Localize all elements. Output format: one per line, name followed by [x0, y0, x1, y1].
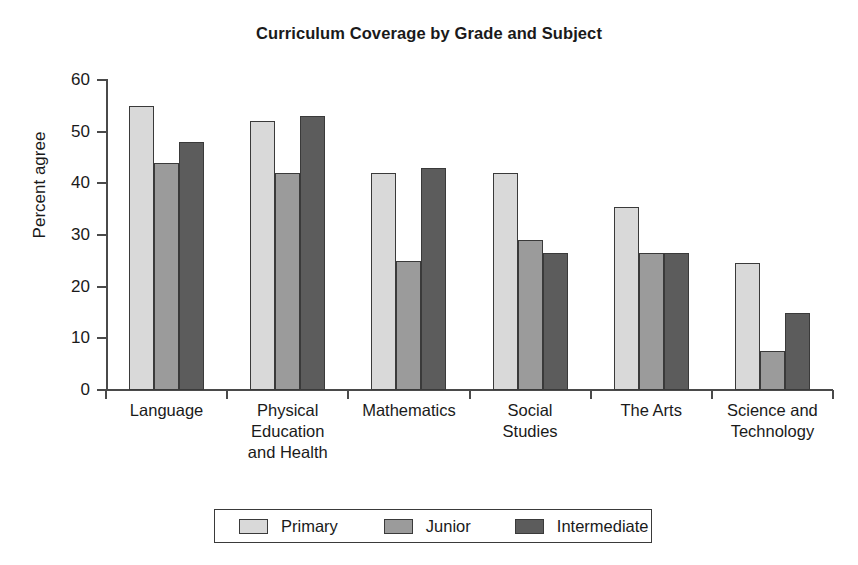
y-tick-mark	[97, 286, 106, 288]
x-category-label: Mathematics	[348, 400, 469, 421]
legend-item-intermediate[interactable]: Intermediate	[515, 510, 649, 542]
bar-group	[735, 80, 810, 390]
x-category-label: Science andTechnology	[712, 400, 833, 442]
legend-label-intermediate: Intermediate	[557, 517, 649, 536]
x-tick-mark	[469, 390, 471, 399]
y-tick-mark	[97, 234, 106, 236]
x-category-label-line: Studies	[470, 421, 591, 442]
y-tick-label: 0	[44, 381, 90, 398]
bar[interactable]	[300, 116, 325, 390]
y-tick-label: 50	[44, 123, 90, 140]
y-tick-mark	[97, 131, 106, 133]
legend-swatch-primary	[239, 519, 268, 534]
legend-label-junior: Junior	[426, 517, 471, 536]
y-tick-mark	[97, 337, 106, 339]
y-tick-label: 40	[44, 174, 90, 191]
legend-item-primary[interactable]: Primary	[239, 510, 338, 542]
x-tick-mark	[347, 390, 349, 399]
bar-group	[614, 80, 689, 390]
bar-group	[250, 80, 325, 390]
x-category-label-line: Physical	[227, 400, 348, 421]
bar[interactable]	[664, 253, 689, 390]
bar[interactable]	[735, 263, 760, 390]
bar-group	[129, 80, 204, 390]
bar-chart: Curriculum Coverage by Grade and Subject…	[0, 0, 858, 565]
x-category-label-line: Language	[106, 400, 227, 421]
legend-label-primary: Primary	[281, 517, 338, 536]
x-category-label-line: The Arts	[591, 400, 712, 421]
bar[interactable]	[518, 240, 543, 390]
y-tick-label: 10	[44, 329, 90, 346]
bar[interactable]	[179, 142, 204, 390]
bar[interactable]	[543, 253, 568, 390]
bar[interactable]	[275, 173, 300, 390]
bar-group	[493, 80, 568, 390]
y-tick-label: 20	[44, 278, 90, 295]
bar-group	[371, 80, 446, 390]
x-category-label-line: Social	[470, 400, 591, 421]
bar[interactable]	[154, 163, 179, 390]
x-category-label-line: Technology	[712, 421, 833, 442]
x-tick-mark	[226, 390, 228, 399]
chart-title: Curriculum Coverage by Grade and Subject	[0, 24, 858, 43]
y-tick-mark	[97, 182, 106, 184]
bar[interactable]	[760, 351, 785, 390]
bar[interactable]	[396, 261, 421, 390]
x-category-label: PhysicalEducationand Health	[227, 400, 348, 463]
x-category-label-line: Education	[227, 421, 348, 442]
x-category-label-line: and Health	[227, 442, 348, 463]
bar[interactable]	[421, 168, 446, 390]
bar[interactable]	[493, 173, 518, 390]
chart-legend: Primary Junior Intermediate	[214, 509, 652, 543]
y-tick-mark	[97, 79, 106, 81]
x-category-label: The Arts	[591, 400, 712, 421]
y-tick-label: 30	[44, 226, 90, 243]
x-category-label-line: Science and	[712, 400, 833, 421]
x-tick-mark	[590, 390, 592, 399]
x-category-label-line: Mathematics	[348, 400, 469, 421]
x-tick-mark	[711, 390, 713, 399]
bar[interactable]	[250, 121, 275, 390]
bar[interactable]	[785, 313, 810, 391]
x-category-label: Language	[106, 400, 227, 421]
x-category-label: SocialStudies	[470, 400, 591, 442]
legend-item-junior[interactable]: Junior	[384, 510, 471, 542]
plot-area	[106, 80, 832, 390]
y-tick-label: 60	[44, 71, 90, 88]
legend-swatch-intermediate	[515, 519, 544, 534]
x-tick-mark	[105, 390, 107, 399]
bar[interactable]	[639, 253, 664, 390]
bar[interactable]	[371, 173, 396, 390]
legend-swatch-junior	[384, 519, 413, 534]
bar[interactable]	[129, 106, 154, 390]
x-tick-mark	[832, 390, 834, 399]
bar[interactable]	[614, 207, 639, 390]
